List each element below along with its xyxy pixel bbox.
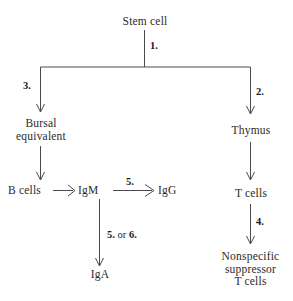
step-label-5-or-6-first: 5.	[107, 229, 115, 240]
node-nonspecific-suppressor-t-cells: Nonspecific suppressor T cells	[203, 250, 293, 288]
node-iga: IgA	[80, 268, 120, 281]
step-label-5-or-6-conjunction: or	[118, 229, 127, 240]
step-label-4: 4.	[256, 216, 264, 227]
node-b-cells: B cells	[8, 184, 54, 197]
step-label-2: 2.	[256, 86, 264, 97]
node-thymus: Thymus	[210, 124, 292, 137]
node-bursal-equivalent: Bursal equivalent	[0, 117, 82, 142]
step-label-5-or-6: 5. or 6.	[107, 229, 137, 240]
node-stem-cell: Stem cell	[100, 15, 190, 28]
step-label-1: 1.	[150, 40, 158, 51]
node-igg: IgG	[158, 184, 194, 197]
step-label-5-or-6-second: 6.	[129, 229, 137, 240]
step-label-3: 3.	[23, 80, 31, 91]
step-label-5: 5.	[126, 176, 134, 187]
node-igm: IgM	[78, 184, 114, 197]
stem-cell-differentiation-diagram: Stem cell Bursal equivalent Thymus B cel…	[0, 0, 293, 301]
node-t-cells: T cells	[212, 187, 290, 200]
